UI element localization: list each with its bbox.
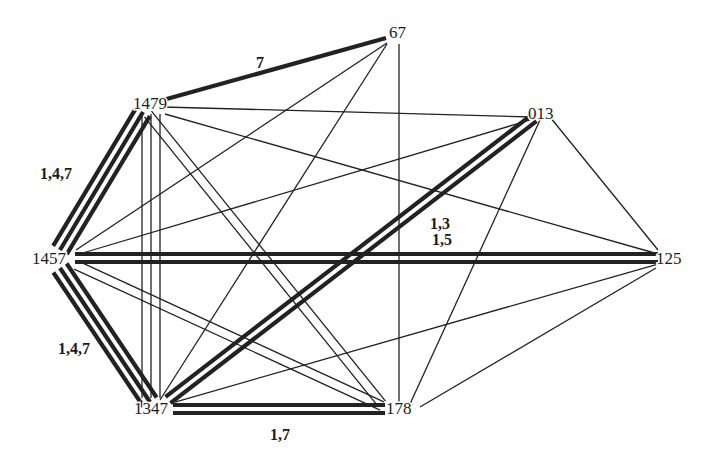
edge-013-125: [550, 117, 658, 250]
edge-125-178: [420, 268, 656, 407]
node-1347: 1347: [134, 399, 169, 418]
edge-label-1457-1347: 1,4,7: [58, 340, 90, 357]
edge-1479-1457-strand-1: [67, 116, 150, 254]
graph-diagram: 71,4,71,4,71,51,31,7 6714790131457125134…: [0, 0, 707, 467]
edge-67-1347: [160, 44, 387, 400]
node-013: 013: [528, 104, 554, 123]
edge-1457-1347-strand-1: [67, 264, 157, 398]
edge-1479-67: [163, 38, 386, 100]
edge-label-1347-013: 1,3: [430, 215, 450, 232]
edge-1479-1457-strand-2: [60, 112, 143, 250]
edge-label-1479-1457: 1,4,7: [40, 165, 72, 182]
edge-label-1457-125: 1,5: [432, 231, 452, 248]
edge-labels-layer: 71,4,71,4,71,51,31,7: [40, 54, 452, 443]
edge-label-1347-178: 1,7: [270, 426, 290, 443]
edge-013-1457: [76, 120, 530, 255]
node-67: 67: [389, 23, 407, 42]
edge-label-1479-67: 7: [256, 54, 264, 71]
node-1457: 1457: [32, 249, 67, 268]
edge-1479-013: [163, 107, 532, 117]
node-125: 125: [656, 249, 682, 268]
node-1479: 1479: [133, 94, 167, 113]
node-178: 178: [386, 399, 412, 418]
